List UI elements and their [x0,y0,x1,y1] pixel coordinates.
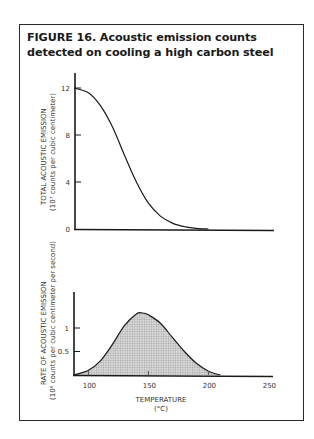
x-tick-label: 250 [263,382,276,390]
upper-y-tick-label: 4 [66,179,71,187]
rate-emission-chart: 0.51100150200250 RATE OF ACOUSTIC EMISSI… [40,241,276,413]
upper-y-tick-label: 0 [66,226,70,234]
lower-y-label-line2: (10⁶ counts per cubic centimeter per sec… [49,241,57,400]
lower-y-tick-label: 1 [65,325,69,333]
x-tick-label: 200 [203,382,216,390]
upper-y-label-line1: TOTAL ACOUSTIC EMISSION [40,108,48,206]
upper-y-tick-label: 8 [66,132,70,140]
x-tick-label: 150 [143,382,156,390]
total-emission-curve [74,88,208,229]
x-axis-label-line2: (°C) [154,405,168,413]
lower-y-tick-label: 0.5 [58,348,69,356]
x-axis-label-line1: TEMPERATURE [135,396,187,404]
total-emission-chart: 04812 TOTAL ACOUSTIC EMISSION (10⁷ count… [40,73,274,234]
x-tick-label: 100 [83,382,96,390]
upper-y-ticks: 04812 [61,85,81,234]
upper-y-label-line2: (10⁷ counts per cubic centimeter) [49,93,57,211]
lower-x-axis [73,376,273,377]
upper-x-axis [74,230,274,231]
upper-y-tick-label: 12 [61,85,70,93]
figure-charts: 04812 TOTAL ACOUSTIC EMISSION (10⁷ count… [0,0,314,439]
lower-y-label-line1: RATE OF ACOUSTIC EMISSION [40,281,48,385]
